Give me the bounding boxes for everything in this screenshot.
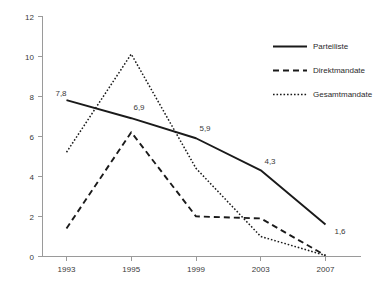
data-labels: 7,8 6,9 5,9 4,3 1,6 [55,89,346,236]
y-tick-label-2: 2 [30,213,35,222]
y-axis-ticks: 12 10 8 6 4 2 0 [25,13,42,262]
y-tick-label-10: 10 [25,53,34,62]
legend-item-direktmandate[interactable]: Direktmandate [273,66,366,75]
x-tick-label-2007: 2007 [317,265,335,274]
x-tick-label-2003: 2003 [252,265,270,274]
chart-axes [43,16,362,257]
series-direktmandate [67,132,326,255]
chart-series [67,54,326,255]
x-axis-ticks: 1993 1995 1999 2003 2007 [58,257,335,275]
x-tick-label-1993: 1993 [58,265,76,274]
legend-label-gesamtmandate: Gesamtmandate [313,90,373,99]
legend-item-gesamtmandate[interactable]: Gesamtmandate [273,90,373,99]
legend-label-direktmandate: Direktmandate [313,66,366,75]
data-label-1999: 5,9 [199,124,211,133]
legend-label-parteiliste: Parteiliste [313,42,349,51]
data-label-1995: 6,9 [133,103,145,112]
data-label-2003: 4,3 [264,157,276,166]
x-tick-label-1995: 1995 [122,265,140,274]
series-parteiliste [67,100,326,224]
y-tick-label-4: 4 [30,173,35,182]
line-chart: 12 10 8 6 4 2 0 1993 1995 1999 2003 [0,0,378,296]
data-label-2007: 1,6 [334,227,346,236]
series-gesamtmandate [67,54,326,255]
chart-legend: Parteiliste Direktmandate Gesamtmandate [273,42,373,99]
y-tick-label-12: 12 [25,13,34,22]
data-label-1993: 7,8 [55,89,67,98]
x-tick-label-1999: 1999 [187,265,205,274]
y-tick-label-6: 6 [30,133,35,142]
legend-item-parteiliste[interactable]: Parteiliste [273,42,349,51]
y-tick-label-8: 8 [30,93,35,102]
y-tick-label-0: 0 [30,253,35,262]
chart-container: 12 10 8 6 4 2 0 1993 1995 1999 2003 [0,0,378,296]
